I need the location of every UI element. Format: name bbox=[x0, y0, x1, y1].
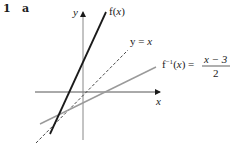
f-inverse-denominator: 2 bbox=[213, 67, 219, 79]
f-inverse-numerator: x − 3 bbox=[203, 53, 228, 65]
x-axis-label: x bbox=[155, 95, 161, 107]
identity-label: y = x bbox=[130, 35, 152, 47]
y-axis-label: y bbox=[72, 6, 78, 18]
f-inverse-line bbox=[40, 67, 156, 124]
f-line bbox=[50, 12, 106, 134]
f-inverse-label: f−1(x) = bbox=[162, 58, 194, 71]
f-label: f(x) bbox=[109, 5, 125, 18]
function-graph: y x y = x f−1(x) = x − 3 2 f(x) bbox=[0, 0, 233, 151]
